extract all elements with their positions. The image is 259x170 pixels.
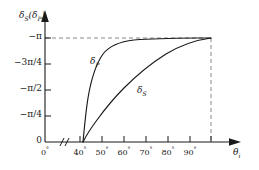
y-tick-label-minus-3pi-4: −3π/4	[0, 58, 42, 67]
curve-delta-s	[83, 38, 211, 142]
curve-label-delta-s: δS	[137, 86, 147, 97]
curve-delta-p	[83, 38, 211, 142]
y-tick-label-zero: 0	[0, 136, 42, 145]
y-axis-title: δS(δP)	[19, 11, 45, 22]
x-tick-label-60deg: 60°	[114, 146, 134, 157]
x-tick-label-80deg: 80°	[158, 146, 178, 157]
x-axis-title: θi	[233, 148, 240, 159]
x-tick-label-90deg: 90°	[180, 146, 200, 157]
x-tick-label-40deg: 40°	[70, 146, 90, 157]
curve-label-delta-p-subscript: P	[95, 61, 99, 68]
y-axis-title-paren-close: )	[42, 10, 46, 20]
curve-label-delta-p: δP	[90, 57, 99, 68]
x-axis-arrowhead	[229, 138, 241, 145]
phase-shift-plot: δS(δP) −π −3π/4 −π/2 −π/4 0 0° 40° 50° 6…	[0, 0, 259, 170]
x-axis-title-subscript: i	[238, 152, 240, 159]
x-tick-label-50deg: 50°	[92, 146, 112, 157]
y-tick-label-minus-pi-2: −π/2	[0, 84, 42, 93]
x-tick-label-0deg: 0°	[35, 146, 55, 157]
x-axis-ticks	[80, 136, 211, 142]
y-tick-label-minus-pi: −π	[0, 32, 42, 41]
y-tick-label-minus-pi-4: −π/4	[0, 110, 42, 119]
curve-label-delta-s-subscript: S	[142, 90, 146, 97]
x-tick-label-70deg: 70°	[136, 146, 156, 157]
y-axis-ticks	[45, 38, 51, 116]
